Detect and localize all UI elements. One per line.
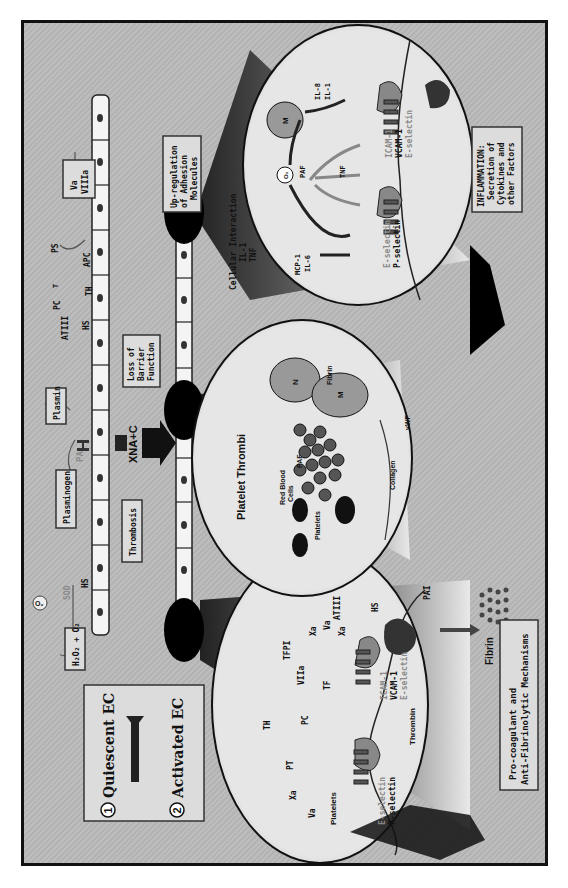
il1-label-2: IL-1 — [324, 83, 332, 100]
upregulation-line3: Molecules — [190, 156, 199, 200]
platelet-thrombi-label: Platelet Thrombi — [235, 434, 247, 520]
p-selectin-label-2: P-selectin — [392, 220, 402, 268]
fibrin-label: Fibrin — [326, 366, 333, 385]
cellular-interaction-label: Cellular Interaction — [228, 193, 238, 290]
inflammation-line2: Secretion of — [486, 142, 496, 200]
o2-label: O₂ — [35, 600, 44, 607]
p-selectin-label: P-selectin — [387, 777, 397, 825]
inflammation-line3: Cytokines and — [496, 142, 506, 205]
circle-inflammation — [243, 25, 473, 305]
th-label: TH — [85, 286, 94, 296]
tnf-label-2: TNF — [339, 165, 347, 178]
m-label-2: M — [281, 117, 290, 124]
svg-text:Quiescent EC: Quiescent EC — [101, 693, 117, 798]
e-selectin-label-4: E-selectin — [404, 110, 414, 158]
plasminogen-label: Plasminogen — [62, 471, 72, 524]
svg-text:1: 1 — [102, 807, 114, 813]
paf-label-2: PAF — [299, 165, 307, 178]
va-label-2: Va — [308, 808, 317, 818]
svg-text:2: 2 — [171, 807, 183, 813]
xna-c-label: XNA+C — [127, 425, 139, 463]
xa-label-3: Xa — [338, 626, 347, 636]
platelets-label-2: Platelets — [314, 511, 321, 540]
atiii-label-2: ATIII — [333, 596, 342, 620]
plasmin-label: Plasmin — [52, 386, 62, 420]
pro-coagulant-label-box — [500, 620, 538, 790]
mcp1-label: MCP-1 — [294, 254, 302, 275]
hs2-label: HS — [82, 320, 91, 330]
m-label: M — [336, 391, 345, 398]
e-selectin-label-2: E-selectin — [399, 652, 409, 700]
collagen-label: Collagen — [389, 460, 397, 490]
n-label: N — [291, 379, 300, 385]
hs-label-3: HS — [371, 602, 380, 612]
platelet-aggregate — [335, 496, 355, 524]
tfpi-label: TFPI — [283, 641, 292, 660]
icam-label-2: ICAM-1 — [385, 129, 394, 158]
rbc-label-2: Cells — [287, 485, 294, 502]
il8-label: IL-8 — [314, 83, 322, 100]
sod-label: SOD — [63, 585, 72, 600]
vwf-label: vWF — [404, 415, 411, 431]
hs-label: HS — [81, 578, 90, 588]
viia-label: VIIa — [297, 666, 306, 685]
platelets-label: Platelets — [329, 792, 338, 825]
o2-label-2: O₂ — [283, 171, 289, 179]
il6-label: IL-6 — [304, 255, 312, 272]
ps-label: PS — [51, 243, 60, 253]
red-blood-cell-2 — [292, 533, 308, 557]
legend-step1: 1 Quiescent EC — [101, 693, 117, 817]
red-blood-cell-1 — [292, 498, 308, 522]
xna-c-arrow — [115, 420, 176, 466]
loss-barrier-line3: Function — [146, 342, 156, 381]
loss-barrier-line2: Barrier — [136, 347, 146, 381]
viiia-label: VIIIa — [81, 170, 90, 194]
svg-text:Activated EC: Activated EC — [170, 698, 186, 799]
fibrin-mesh — [480, 588, 509, 625]
t-label: T — [52, 284, 60, 288]
upregulation-line2: of Adhesion — [179, 155, 189, 208]
inflammation-line4: other Factors — [507, 142, 516, 205]
thrombosis-label: Thrombosis — [128, 508, 138, 556]
th-label-2: TH — [263, 720, 272, 730]
upregulation-line1: Up-regulation — [169, 145, 179, 208]
atiii-label: ATIII — [61, 316, 70, 340]
pa-label: PA — [75, 451, 85, 462]
rbc-label-1: Red Blood — [279, 470, 286, 505]
pc-label: PC — [53, 300, 62, 310]
vcam-label: VCAM-1 — [390, 671, 399, 700]
tf-label: TF — [323, 680, 332, 690]
procoag-line1: Pro-coagulant and — [508, 688, 518, 780]
xa-label-2: Xa — [309, 626, 318, 636]
e-selectin-label-3: E-selectin — [382, 220, 392, 268]
va-label: Va — [70, 180, 79, 190]
thrombin-label: Thrombin — [408, 708, 417, 745]
apc-label: APC — [83, 252, 92, 267]
fibrin-label-2: Fibrin — [484, 637, 495, 665]
activated-ec-lobe-1 — [164, 598, 204, 662]
icam-label: ICAM-1 — [380, 671, 389, 700]
il1-label: IL-1 — [239, 243, 248, 262]
xa-label: Xa — [289, 790, 298, 800]
va-label-3: Va — [323, 620, 332, 630]
e-selectin-label: E-selectin — [377, 777, 387, 825]
h2o2-label: H₂O₂ + O₂ — [72, 623, 81, 666]
vcam-label-2: VCAM-1 — [395, 129, 404, 158]
pt-label: PT — [286, 760, 295, 770]
pai-label: PAI — [423, 585, 432, 600]
loss-barrier-line1: Loss of — [127, 347, 136, 381]
pc-label-2: PC — [301, 715, 310, 725]
tnf-label: TNF — [249, 247, 258, 262]
paf-label: PAF — [296, 454, 303, 468]
endothelial-activation-diagram: 1 Quiescent EC 2 Activated EC O₂ SOD HS … — [0, 0, 568, 888]
inflammation-line1: INFLAMMATION: — [477, 144, 486, 207]
va-viiia-box — [63, 160, 95, 198]
procoag-line2: Anti-Fibrinolytic Mechanisms — [520, 633, 530, 785]
